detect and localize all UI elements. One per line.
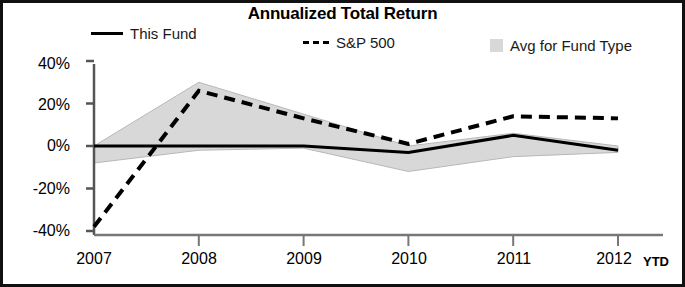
- chart-canvas: [3, 3, 685, 287]
- x-tick-2010: 2010: [374, 250, 444, 268]
- chart-frame: Annualized Total Return This Fund S&P 50…: [0, 0, 685, 287]
- x-tick-2008: 2008: [164, 250, 234, 268]
- x-tick-2012: 2012: [579, 250, 649, 268]
- ytd-annotation: YTD: [643, 254, 669, 269]
- x-tick-2007: 2007: [59, 250, 129, 268]
- y-tick-20: 20%: [8, 96, 70, 114]
- y-tick-neg20: -20%: [8, 180, 70, 198]
- x-tick-2011: 2011: [479, 250, 549, 268]
- y-tick-40: 40%: [8, 55, 70, 73]
- x-tick-2009: 2009: [269, 250, 339, 268]
- y-tick-neg40: -40%: [8, 222, 70, 240]
- plot-area: 40% 20% 0% -20% -40% 2007 2008 2009 2010…: [3, 3, 685, 287]
- y-tick-0: 0%: [8, 137, 70, 155]
